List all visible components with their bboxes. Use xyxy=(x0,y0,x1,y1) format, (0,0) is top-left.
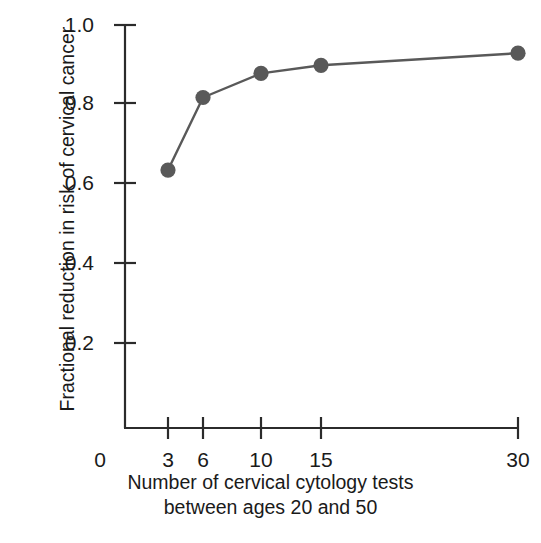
y-axis-title: Fractional reduction in risk of cervical… xyxy=(56,62,79,412)
y-axis-title-line-2: cervical cancer xyxy=(56,27,78,157)
x-axis-title-line-1: Number of cervical cytology tests xyxy=(0,470,541,495)
x-axis-title: Number of cervical cytology tests betwee… xyxy=(0,470,541,520)
data-series-line xyxy=(168,53,518,170)
x-axis-tick-label: 6 xyxy=(197,448,209,472)
data-series-markers xyxy=(160,46,525,178)
x-axis-tick-label: 15 xyxy=(309,448,332,472)
x-axis-tick-label: 30 xyxy=(506,448,529,472)
data-point-marker xyxy=(160,163,175,178)
chart-figure: 1.00.80.60.40.2 036101530 Fractional red… xyxy=(0,0,541,543)
x-axis-title-line-2: between ages 20 and 50 xyxy=(0,495,541,520)
x-axis-tick-label: 3 xyxy=(162,448,174,472)
data-point-marker xyxy=(510,46,525,61)
data-point-marker xyxy=(195,90,210,105)
data-point-marker xyxy=(253,66,268,81)
x-axis-tick-label: 0 xyxy=(94,448,106,472)
y-axis-title-line-1: Fractional reduction in risk of xyxy=(56,162,78,411)
data-point-marker xyxy=(313,58,328,73)
x-axis-tick-label: 10 xyxy=(249,448,272,472)
